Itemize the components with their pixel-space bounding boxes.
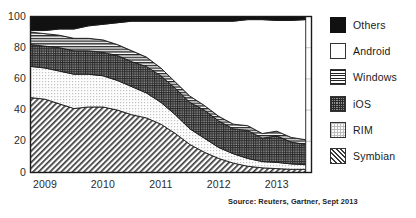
legend-swatch-icon <box>330 69 346 85</box>
legend-label: iOS <box>353 98 371 110</box>
x-tick-label: 2011 <box>138 178 184 190</box>
legend-swatch-icon <box>330 148 346 164</box>
source-note: Source: Reuters, Gartner, Sept 2013 <box>228 197 358 206</box>
legend-label: RIM <box>353 124 373 136</box>
y-tick-label: 60 <box>0 72 26 84</box>
x-tick-label: 2013 <box>254 178 300 190</box>
x-tick-label: 2009 <box>22 178 68 190</box>
legend-item-rim[interactable]: RIM <box>330 117 416 143</box>
legend-swatch-icon <box>330 96 346 112</box>
legend-label: Windows <box>353 71 397 83</box>
area-series-group <box>31 17 306 173</box>
legend-item-windows[interactable]: Windows <box>330 64 416 90</box>
y-tick-label: 0 <box>0 166 26 178</box>
stacked-area-chart: 020406080100 20092010201120122013 Others… <box>0 0 416 218</box>
y-tick-label: 20 <box>0 134 26 146</box>
legend-label: Symbian <box>353 150 395 162</box>
y-tick-label: 40 <box>0 103 26 115</box>
legend-swatch-icon <box>330 17 346 33</box>
legend-swatch-icon <box>330 43 346 59</box>
legend-item-ios[interactable]: iOS <box>330 91 416 117</box>
legend-item-others[interactable]: Others <box>330 12 416 38</box>
legend-label: Others <box>353 19 386 31</box>
legend-item-android[interactable]: Android <box>330 38 416 64</box>
legend-label: Android <box>353 45 391 57</box>
chart-legend: OthersAndroidWindowsiOSRIMSymbian <box>330 12 416 169</box>
y-tick-label: 100 <box>0 10 26 22</box>
legend-item-symbian[interactable]: Symbian <box>330 143 416 169</box>
y-tick-label: 80 <box>0 41 26 53</box>
legend-swatch-icon <box>330 122 346 138</box>
x-tick-label: 2010 <box>80 178 126 190</box>
x-tick-label: 2012 <box>196 178 242 190</box>
